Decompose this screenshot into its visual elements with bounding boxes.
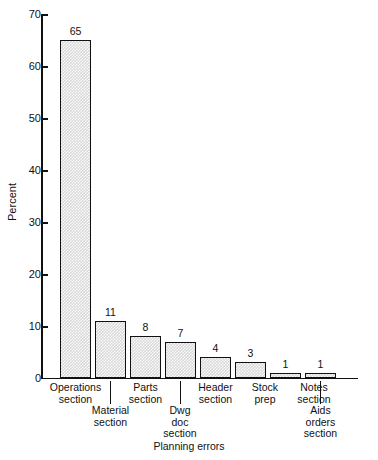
bar-header-section xyxy=(200,357,231,378)
y-tick-20 xyxy=(41,274,48,276)
x-label-stock-prep: Stock prep xyxy=(243,382,287,405)
x-label-aids-orders-section-line1: Aids xyxy=(310,404,330,416)
x-connector-dwg-doc-section xyxy=(180,381,181,404)
y-tick-50 xyxy=(41,118,48,120)
bar-value-parts-section: 8 xyxy=(130,322,161,333)
y-tick-70 xyxy=(41,14,48,16)
y-axis-line xyxy=(41,14,43,378)
bar-chart: 70 60 50 40 30 20 10 0 Percent 65 11 8 7… xyxy=(0,0,378,460)
x-label-header-section: Header section xyxy=(185,382,246,405)
x-label-dwg-doc-section: Dwg doc section xyxy=(152,405,208,440)
x-label-material-section-line2: section xyxy=(73,417,148,429)
bar-notes-section xyxy=(270,373,301,378)
x-label-dwg-doc-section-line3: section xyxy=(152,428,208,440)
bar-value-header-section: 4 xyxy=(200,343,231,354)
x-label-material-section: Material section xyxy=(73,405,148,428)
bar-operations-section xyxy=(60,40,91,378)
x-label-aids-orders-section: Aids orders section xyxy=(292,405,349,440)
x-label-notes-section: Notes section xyxy=(285,382,343,405)
bar-value-stock-prep: 3 xyxy=(235,348,266,359)
x-label-aids-orders-section-line3: section xyxy=(292,428,349,440)
bar-material-section xyxy=(95,321,126,378)
bar-value-aids-orders-section: 1 xyxy=(305,359,336,370)
y-tick-label-70: 70 xyxy=(15,9,41,20)
bar-stock-prep xyxy=(235,362,266,378)
y-tick-label-40: 40 xyxy=(15,165,41,176)
x-connector-aids-orders-section xyxy=(320,381,321,404)
x-label-stock-prep-line2: prep xyxy=(243,394,287,406)
x-label-stock-prep-line1: Stock xyxy=(252,381,278,393)
x-label-header-section-line1: Header xyxy=(198,381,232,393)
x-label-parts-section: Parts section xyxy=(111,382,180,405)
y-tick-label-60: 60 xyxy=(15,61,41,72)
y-tick-label-10: 10 xyxy=(15,321,41,332)
x-label-material-section-line1: Material xyxy=(92,404,129,416)
y-tick-60 xyxy=(41,66,48,68)
bar-value-notes-section: 1 xyxy=(270,359,301,370)
x-label-notes-section-line1: Notes xyxy=(300,381,327,393)
y-tick-label-30: 30 xyxy=(15,217,41,228)
bar-value-material-section: 11 xyxy=(95,307,126,318)
x-label-operations-section-line1: Operations xyxy=(50,381,101,393)
x-axis-title: Planning errors xyxy=(0,440,378,452)
y-tick-30 xyxy=(41,222,48,224)
x-label-dwg-doc-section-line1: Dwg xyxy=(169,404,190,416)
y-tick-label-50: 50 xyxy=(15,113,41,124)
bar-parts-section xyxy=(130,336,161,378)
bar-dwg-doc-section xyxy=(165,342,196,378)
bar-value-dwg-doc-section: 7 xyxy=(165,328,196,339)
x-connector-material-section xyxy=(110,381,111,404)
y-tick-40 xyxy=(41,170,48,172)
y-axis-title: Percent xyxy=(6,172,18,232)
y-tick-label-20: 20 xyxy=(15,269,41,280)
bar-value-operations-section: 65 xyxy=(60,26,91,37)
x-label-parts-section-line1: Parts xyxy=(133,381,158,393)
bar-aids-orders-section xyxy=(305,373,336,378)
x-label-header-section-line2: section xyxy=(185,394,246,406)
y-tick-10 xyxy=(41,326,48,328)
x-label-operations-section: Operations section xyxy=(36,382,115,405)
